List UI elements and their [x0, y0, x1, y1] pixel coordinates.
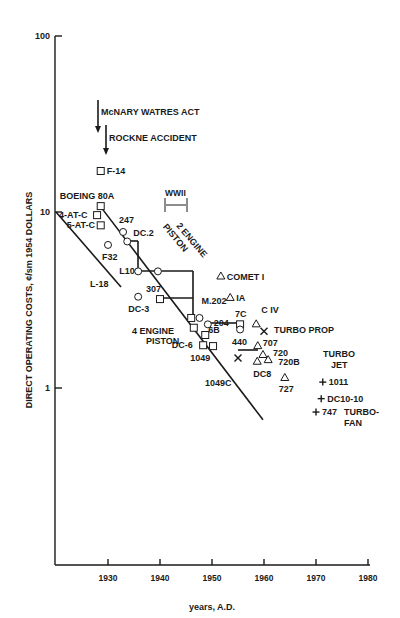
- point-dc-6: [190, 324, 197, 331]
- annotation-2-engine-piston: 2 ENGINEPISTON: [161, 215, 209, 267]
- label-ia: IA: [236, 293, 246, 303]
- label-307: 307: [146, 284, 161, 294]
- point-f-14: [97, 167, 104, 174]
- point-1049: [200, 342, 207, 349]
- label-1049c: 1049C: [205, 378, 232, 388]
- point-1011: [319, 379, 326, 386]
- point-4-engine-piston: [188, 314, 195, 321]
- label-247: 247: [119, 215, 134, 225]
- annotation-turbo-fan: TURBO-FAN: [344, 407, 379, 428]
- point-747: [313, 409, 320, 416]
- label-f-14: F-14: [107, 166, 126, 176]
- annotation-turbo-jet: TURBOJET: [323, 349, 355, 370]
- annotation-4-engine-piston: PISTON: [146, 336, 179, 346]
- point-247: [120, 228, 127, 235]
- point-dc-2: [124, 238, 131, 245]
- point-707: [254, 342, 262, 349]
- mcnary-arrowhead: [95, 126, 101, 133]
- annotation-4-engine: 4 ENGINE: [132, 326, 174, 336]
- label-4-at-c: 4-AT-C: [59, 210, 88, 220]
- x-tick-label: 1930: [99, 573, 118, 583]
- label-727: 727: [279, 384, 294, 394]
- label-dc10-10: DC10-10: [327, 394, 363, 404]
- point-5-at-c: [97, 222, 104, 229]
- label-dc-3: DC-3: [128, 304, 149, 314]
- point-720: [259, 350, 267, 357]
- point-m-202: [196, 314, 203, 321]
- y-ticks: 110100: [35, 31, 62, 393]
- point-dc-3: [135, 293, 142, 300]
- point-dc10-10: [318, 395, 325, 402]
- y-tick-label: 1: [45, 383, 50, 393]
- y-axis-label: DIRECT OPERATING COSTS, ¢/sm 1954 DOLLAR…: [24, 192, 34, 408]
- label-comet-i: COMET I: [227, 272, 265, 282]
- x-tick-label: 1970: [307, 573, 326, 583]
- annotation-wwii: WWII: [165, 188, 186, 198]
- label-747: 747: [322, 407, 337, 417]
- y-tick-label: 100: [35, 31, 50, 41]
- point-dc8: [253, 357, 261, 364]
- label-boeing-80a: BOEING 80A: [60, 191, 115, 201]
- label-m-202: M.202: [202, 296, 227, 306]
- point-727: [281, 373, 289, 380]
- point-440: [237, 326, 244, 333]
- point-1049c: [210, 343, 217, 350]
- label-turbo-prop: TURBO PROP: [274, 325, 334, 335]
- label-707: 707: [263, 338, 278, 348]
- label-dc-2: DC.2: [133, 228, 154, 238]
- annotation-mcnary: McNARY WATRES ACT: [101, 107, 200, 117]
- label-6b: 6B: [208, 325, 220, 335]
- trend-lines: [56, 206, 263, 420]
- x-tick-label: 1980: [359, 573, 378, 583]
- point-unlabeled: [235, 355, 242, 362]
- label-dc8: DC8: [253, 369, 271, 379]
- point-4-at-c: [94, 212, 101, 219]
- point-boeing-80a: [97, 203, 104, 210]
- label-l-18: L-18: [90, 279, 109, 289]
- label-7c: 7C: [235, 309, 247, 319]
- label-c-iv: C IV: [261, 305, 279, 315]
- x-axis-label: years, A.D.: [189, 602, 235, 612]
- label-1011: 1011: [329, 377, 349, 387]
- label-440: 440: [232, 337, 247, 347]
- label-720b: 720B: [278, 357, 300, 367]
- y-tick-label: 10: [40, 207, 50, 217]
- rockne-arrowhead: [103, 148, 109, 155]
- label-f32: F32: [102, 252, 118, 262]
- point-f32: [105, 241, 112, 248]
- point-ia: [226, 293, 234, 300]
- x-tick-label: 1960: [255, 573, 274, 583]
- point-turbo-prop: [261, 328, 268, 335]
- annotation-rockne: ROCKNE ACCIDENT: [109, 133, 197, 143]
- x-ticks: 193019401950196019701980: [99, 559, 378, 583]
- x-tick-label: 1950: [203, 573, 222, 583]
- point-l-18: [154, 268, 161, 275]
- point-307: [157, 296, 164, 303]
- point-l10: [135, 268, 142, 275]
- chart: years, A.D. DIRECT OPERATING COSTS, ¢/sm…: [0, 0, 400, 618]
- point-comet-i: [217, 272, 225, 279]
- x-tick-label: 1940: [151, 573, 170, 583]
- label-5-at-c: 5-AT-C: [67, 220, 96, 230]
- point-c-iv: [252, 320, 260, 327]
- label-l10: L10: [119, 266, 135, 276]
- label-1049: 1049: [190, 353, 210, 363]
